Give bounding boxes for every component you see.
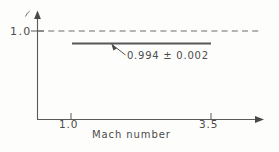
y-axis-tick-label: 1.0 bbox=[10, 25, 32, 38]
stray-pen-mark bbox=[26, 11, 30, 16]
x-axis-arrowhead bbox=[255, 116, 264, 123]
x-axis-tick-label-left: 1.0 bbox=[59, 118, 78, 130]
y-axis-group bbox=[31, 11, 44, 120]
x-axis-tick-label-right: 3.5 bbox=[199, 118, 218, 130]
annotation-leader-group bbox=[111, 43, 125, 55]
mach-number-chart: 1.0 1.0 3.5 Mach number 0.994 ± 0.002 bbox=[0, 0, 279, 152]
y-axis-arrowhead bbox=[34, 11, 41, 20]
series-value-annotation: 0.994 ± 0.002 bbox=[127, 50, 209, 61]
x-axis-title: Mach number bbox=[92, 129, 171, 140]
